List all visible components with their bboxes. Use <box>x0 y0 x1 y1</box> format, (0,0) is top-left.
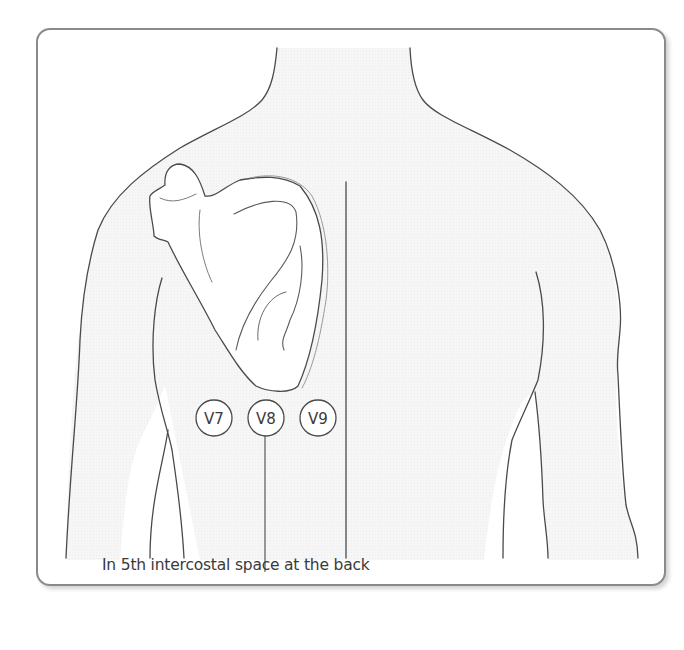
lead-v8-label: V8 <box>256 410 276 428</box>
posterior-torso-diagram: V7 V8 V9 <box>0 0 684 650</box>
lead-v9: V9 <box>300 400 336 436</box>
lead-v9-label: V9 <box>308 410 328 428</box>
torso-silhouette <box>66 48 638 560</box>
figure-caption: In 5th intercostal space at the back <box>102 556 370 574</box>
left-armpit-outline <box>150 430 168 558</box>
lead-v7-label: V7 <box>204 410 224 428</box>
lead-v7: V7 <box>196 400 232 436</box>
lead-v8: V8 <box>248 400 284 436</box>
